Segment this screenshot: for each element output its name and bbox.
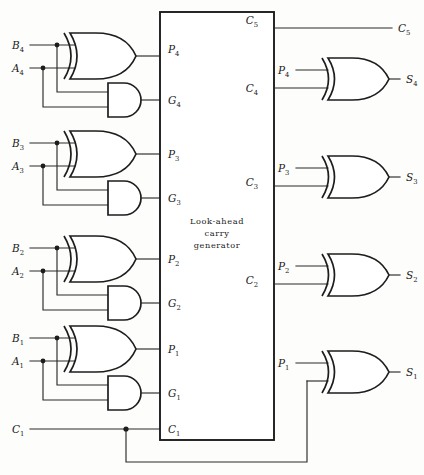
adder-stage-1: B1 A1 [11, 326, 160, 410]
adder-stage-2: B2 A2 [11, 236, 160, 320]
label-s3-out: S3 [406, 171, 418, 186]
label-a3: A3 [11, 160, 24, 175]
output-c5-group: C5 [274, 22, 410, 37]
junction-dot-a2 [41, 269, 46, 274]
label-s2-out: S2 [406, 269, 418, 284]
label-p4-sum-input: P4 [277, 64, 289, 79]
sum-gate-s4-group: P4 S4 [274, 58, 418, 100]
block-rect [160, 12, 274, 440]
xor-gate-s4 [322, 58, 389, 100]
label-p2-sum-input: P2 [277, 260, 289, 275]
label-c5-out: C5 [398, 22, 410, 37]
circuit-svg: B4 A4 B3 A3 [0, 0, 424, 475]
circuit-diagram: B4 A4 B3 A3 [0, 0, 424, 475]
label-s1-out: S1 [406, 366, 418, 381]
junction-dot-a1 [41, 359, 46, 364]
label-b3: B3 [11, 137, 24, 152]
block-label-line1: Look-ahead [190, 216, 244, 226]
and-gate-g1 [108, 376, 141, 410]
junction-dot-c1 [123, 426, 128, 431]
sum-gate-s3-group: P3 S3 [274, 156, 418, 198]
adder-stage-3: B3 A3 [11, 131, 160, 215]
junction-dot-b1 [55, 336, 60, 341]
label-b4: B4 [11, 39, 24, 54]
adder-stage-4: B4 A4 [11, 33, 160, 117]
sum-gate-s2-group: P2 S2 [274, 254, 418, 296]
junction-dot-b2 [55, 246, 60, 251]
junction-dot-b3 [55, 141, 60, 146]
and-gate-g3 [108, 181, 141, 215]
and-gate-g2 [108, 286, 141, 320]
xor-gate-p4 [64, 33, 136, 79]
block-label-line3: generator [194, 240, 241, 250]
junction-dot-b4 [55, 43, 60, 48]
block-label-line2: carry [205, 228, 230, 238]
sum-gate-s1-group: P1 S1 [277, 351, 418, 393]
lookahead-carry-generator-block: Look-ahead carry generator P4 G4 P3 G3 P… [160, 12, 274, 440]
label-p1-sum-input: P1 [277, 357, 289, 372]
label-p3-sum-input: P3 [277, 162, 289, 177]
label-c1-in: C1 [12, 423, 24, 438]
xor-gate-s3 [322, 156, 389, 198]
label-a4: A4 [11, 62, 24, 77]
label-a1: A1 [11, 355, 24, 370]
xor-gate-p3 [64, 131, 136, 177]
xor-gate-s2 [322, 254, 389, 296]
xor-gate-p1 [64, 326, 136, 372]
label-b1: B1 [11, 332, 24, 347]
label-a2: A2 [11, 265, 24, 280]
junction-dot-a4 [41, 66, 46, 71]
and-gate-g4 [108, 83, 141, 117]
junction-dot-a3 [41, 164, 46, 169]
xor-gate-s1 [322, 351, 389, 393]
label-s4-out: S4 [406, 73, 418, 88]
label-b2: B2 [11, 242, 24, 257]
xor-gate-p2 [64, 236, 136, 282]
